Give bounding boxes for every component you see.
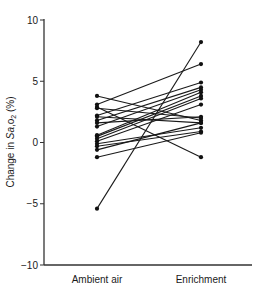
- data-point-marker: [199, 80, 203, 84]
- data-point-marker: [199, 155, 203, 159]
- y-tick-label: 10: [27, 15, 39, 26]
- y-axis-label-suffix: (%): [5, 96, 16, 114]
- y-tick-label: −5: [27, 198, 39, 209]
- category-label-enrichment: Enrichment: [176, 274, 227, 285]
- data-point-marker: [95, 207, 99, 211]
- data-point-marker: [95, 115, 99, 119]
- data-point-marker: [95, 148, 99, 152]
- subject-line: [97, 107, 201, 157]
- data-point-marker: [199, 121, 203, 125]
- data-point-marker: [95, 155, 99, 159]
- data-point-marker: [95, 121, 99, 125]
- y-tick-label: −10: [21, 260, 38, 271]
- subject-line: [97, 42, 201, 209]
- subject-line: [97, 90, 201, 127]
- axes: −10−50510: [21, 15, 252, 271]
- data-point-marker: [199, 90, 203, 94]
- data-point-marker: [199, 40, 203, 44]
- y-ticks: −10−50510: [21, 15, 44, 271]
- svg-text:Change in Sa,o2 (%): Change in Sa,o2 (%): [5, 96, 17, 187]
- data-point-marker: [95, 94, 99, 98]
- y-axis-label-italic: Sa: [5, 127, 16, 140]
- data-point-marker: [199, 131, 203, 135]
- category-label-ambient-air: Ambient air: [72, 274, 123, 285]
- data-point-marker: [95, 124, 99, 128]
- data-point-marker: [95, 144, 99, 148]
- category-labels: Ambient air Enrichment: [72, 274, 227, 285]
- y-axis-label-prefix: Change in: [5, 139, 16, 187]
- y-axis-label: Change in Sa,o2 (%): [5, 96, 17, 187]
- subject-line: [97, 131, 201, 146]
- y-tick-label: 5: [32, 76, 38, 87]
- data-point-marker: [199, 96, 203, 100]
- data-point-marker: [199, 62, 203, 66]
- y-tick-label: 0: [32, 137, 38, 148]
- data-point-marker: [95, 106, 99, 110]
- data-point-marker: [199, 126, 203, 130]
- subject-lines: [97, 42, 201, 209]
- data-point-marker: [199, 115, 203, 119]
- data-point-marker: [199, 102, 203, 106]
- paired-line-chart: −10−50510 Change in Sa,o2 (%) Ambient ai…: [0, 0, 265, 297]
